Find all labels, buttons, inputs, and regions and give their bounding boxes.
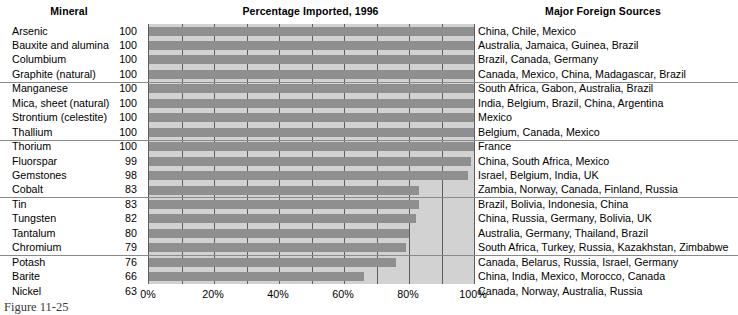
table-row: Thallium100Belgium, Canada, Mexico [0,125,738,140]
percentage-imported-value: 100 [95,97,137,110]
mineral-name: Cobalt [12,183,43,196]
major-foreign-sources-value: China, Russia, Germany, Bolivia, UK [478,212,652,225]
major-foreign-sources-value: Australia, Germany, Thailand, Brazil [478,227,648,240]
mineral-name: Potash [12,256,45,269]
major-foreign-sources-value: China, South Africa, Mexico [478,155,609,168]
percentage-imported-value: 82 [95,212,137,225]
major-foreign-sources-value: Israel, Belgium, India, UK [478,169,599,182]
major-foreign-sources-value: China, India, Mexico, Morocco, Canada [478,270,665,283]
major-foreign-sources-value: India, Belgium, Brazil, China, Argentina [478,97,663,110]
x-axis-tick-label: 80% [397,288,418,300]
major-foreign-sources-value: Canada, Norway, Australia, Russia [478,285,642,298]
major-foreign-sources-value: Belgium, Canada, Mexico [478,126,600,139]
percentage-imported-value: 76 [95,256,137,269]
mineral-name: Strontium (celestite) [12,111,107,124]
table-row: Chromium79South Africa, Turkey, Russia, … [0,241,738,256]
percentage-imported-value: 100 [95,25,137,38]
major-foreign-sources-value: Canada, Belarus, Russia, Israel, Germany [478,256,678,269]
mineral-name: Thorium [12,140,51,153]
table-row: Mica, sheet (natural)100India, Belgium, … [0,96,738,110]
percentage-imported-value: 63 [95,285,137,298]
table-row: Gemstones98Israel, Belgium, India, UK [0,169,738,183]
percentage-imported-value: 79 [95,241,137,254]
table-row: Cobalt83Zambia, Norway, Canada, Finland,… [0,183,738,198]
major-foreign-sources-value: France [478,140,511,153]
mineral-name: Thallium [12,126,52,139]
percentage-imported-value: 80 [95,227,137,240]
percentage-imported-value: 99 [95,155,137,168]
major-foreign-sources-value: Brazil, Canada, Germany [478,53,598,66]
column-header-mineral: Mineral [0,5,138,17]
mineral-name: Arsenic [12,25,48,38]
table-row: Columbium100Brazil, Canada, Germany [0,53,738,67]
major-foreign-sources-value: South Africa, Turkey, Russia, Kazakhstan… [478,241,728,254]
percentage-imported-value: 100 [95,82,137,95]
mineral-name: Tantalum [12,227,55,240]
mineral-name: Columbium [12,53,66,66]
mineral-name: Tungsten [12,212,56,225]
mineral-name: Graphite (natural) [12,68,96,81]
table-row: Nickel63Canada, Norway, Australia, Russi… [0,284,738,298]
table-row: Graphite (natural)100Canada, Mexico, Chi… [0,67,738,82]
x-axis-tick-label: 20% [202,288,223,300]
percentage-imported-value: 83 [95,183,137,196]
table-row: Tantalum80Australia, Germany, Thailand, … [0,226,738,240]
mineral-import-table: Arsenic100China, Chile, MexicoBauxite an… [0,24,738,284]
mineral-name: Manganese [12,82,68,95]
percentage-imported-value: 98 [95,169,137,182]
mineral-name: Tin [12,198,26,211]
table-row: Potash76Canada, Belarus, Russia, Israel,… [0,255,738,269]
mineral-name: Chromium [12,241,61,254]
table-row: Barite66China, India, Mexico, Morocco, C… [0,270,738,284]
x-axis-tick-label: 0% [140,288,155,300]
percentage-imported-value: 100 [95,68,137,81]
percentage-imported-value: 83 [95,198,137,211]
percentage-imported-value: 66 [95,270,137,283]
table-row: Arsenic100China, Chile, Mexico [0,24,738,38]
x-axis-tick-label: 100% [459,288,486,300]
chart-title: Percentage Imported, 1996 [148,5,473,17]
table-row: Thorium100France [0,140,738,154]
percentage-imported-value: 100 [95,140,137,153]
table-row: Fluorspar99China, South Africa, Mexico [0,154,738,168]
figure-caption: Figure 11-25 [4,300,68,315]
table-row: Bauxite and alumina100Australia, Jamaica… [0,38,738,52]
table-row: Tin83Brazil, Bolivia, Indonesia, China [0,197,738,211]
table-row: Manganese100South Africa, Gabon, Austral… [0,82,738,96]
mineral-name: Gemstones [12,169,67,182]
x-axis-tick-label: 40% [267,288,288,300]
major-foreign-sources-value: Canada, Mexico, China, Madagascar, Brazi… [478,68,686,81]
column-header-major-foreign-sources: Major Foreign Sources [478,5,728,17]
major-foreign-sources-value: South Africa, Gabon, Australia, Brazil [478,82,653,95]
major-foreign-sources-value: China, Chile, Mexico [478,25,576,38]
table-row: Tungsten82China, Russia, Germany, Bolivi… [0,212,738,226]
percentage-imported-value: 100 [95,111,137,124]
x-axis-tick-label: 60% [332,288,353,300]
major-foreign-sources-value: Brazil, Bolivia, Indonesia, China [478,198,628,211]
major-foreign-sources-value: Zambia, Norway, Canada, Finland, Russia [478,183,678,196]
major-foreign-sources-value: Australia, Jamaica, Guinea, Brazil [478,39,638,52]
table-row: Strontium (celestite)100Mexico [0,111,738,125]
percentage-imported-value: 100 [95,53,137,66]
percentage-imported-value: 100 [95,39,137,52]
mineral-name: Barite [12,270,40,283]
mineral-name: Fluorspar [12,155,57,168]
major-foreign-sources-value: Mexico [478,111,512,124]
percentage-imported-value: 100 [95,126,137,139]
mineral-name: Nickel [12,285,41,298]
